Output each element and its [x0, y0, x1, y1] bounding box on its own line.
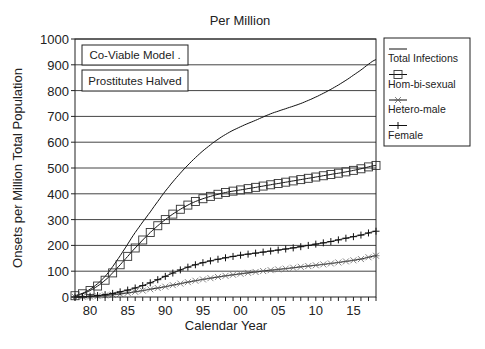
- x-tick-label: 95: [196, 303, 210, 318]
- y-tick-label: 400: [47, 187, 69, 202]
- asterisk-marker: [169, 282, 176, 288]
- plus-marker: [169, 270, 176, 277]
- legend-label: Female: [388, 129, 423, 141]
- plus-marker: [327, 238, 334, 245]
- asterisk-marker: [207, 275, 214, 281]
- x-axis-label: Calendar Year: [185, 318, 268, 333]
- plus-marker: [297, 243, 304, 250]
- y-tick-label: 900: [47, 58, 69, 73]
- plus-marker: [199, 259, 206, 266]
- plus-marker: [230, 253, 237, 260]
- x-tick-label: 15: [346, 303, 360, 318]
- plus-marker: [147, 279, 154, 286]
- asterisk-marker: [260, 268, 267, 274]
- plus-marker: [350, 233, 357, 240]
- plus-marker: [154, 276, 161, 283]
- y-tick-label: 500: [47, 161, 69, 176]
- plus-marker: [267, 248, 274, 255]
- asterisk-marker: [357, 256, 364, 262]
- x-tick-label: 80: [83, 303, 97, 318]
- asterisk-marker: [290, 265, 297, 271]
- asterisk-marker: [214, 274, 221, 280]
- plus-marker: [132, 284, 139, 291]
- plus-marker: [357, 232, 364, 239]
- asterisk-marker: [342, 258, 349, 264]
- y-tick-label: 1000: [40, 32, 69, 47]
- plus-marker: [184, 264, 191, 271]
- data-series: [71, 60, 380, 301]
- asterisk-marker: [199, 276, 206, 282]
- y-tick-label: 100: [47, 264, 69, 279]
- asterisk-marker: [162, 284, 169, 290]
- plus-marker: [162, 273, 169, 280]
- plus-marker: [282, 246, 289, 253]
- annotation-text: Co-Viable Model .: [89, 49, 180, 61]
- x-tick-label: 85: [120, 303, 134, 318]
- plus-marker: [275, 247, 282, 254]
- plus-marker: [207, 257, 214, 264]
- y-tick-label: 800: [47, 84, 69, 99]
- plus-marker: [222, 254, 229, 261]
- x-tick-label: 00: [233, 303, 247, 318]
- series-female: [72, 228, 380, 301]
- plus-marker: [335, 236, 342, 243]
- legend-label: Hom-bi-sexual: [388, 78, 456, 90]
- x-tick-label: 90: [158, 303, 172, 318]
- x-axis: 8085909500051015: [75, 297, 376, 318]
- plus-marker: [260, 249, 267, 256]
- chart: Per Million 0100200300400500600700800900…: [0, 0, 485, 349]
- asterisk-marker: [305, 263, 312, 269]
- plus-marker: [192, 261, 199, 268]
- plus-marker: [342, 235, 349, 242]
- plus-marker: [312, 241, 319, 248]
- asterisk-marker: [312, 262, 319, 268]
- legend-label: Total Infections: [388, 52, 458, 64]
- asterisk-marker: [230, 272, 237, 278]
- plus-marker: [305, 242, 312, 249]
- asterisk-marker: [192, 278, 199, 284]
- asterisk-marker: [184, 279, 191, 285]
- plus-marker: [252, 250, 259, 257]
- legend: Total InfectionsHom-bi-sexualHetero-male…: [384, 38, 470, 146]
- annotation-boxes: Co-Viable Model .Prostitutes Halved: [82, 45, 188, 91]
- asterisk-marker: [177, 281, 184, 287]
- y-axis-label: Onsets per Million Total Population: [10, 68, 25, 268]
- y-tick-label: 700: [47, 109, 69, 124]
- asterisk-marker: [327, 260, 334, 266]
- asterisk-marker: [267, 267, 274, 273]
- x-tick-label: 10: [309, 303, 323, 318]
- line-chart: Per Million 0100200300400500600700800900…: [0, 0, 485, 349]
- asterisk-marker: [350, 257, 357, 263]
- plus-marker: [245, 251, 252, 258]
- y-tick-label: 600: [47, 135, 69, 150]
- asterisk-marker: [335, 259, 342, 265]
- asterisk-marker: [320, 261, 327, 267]
- y-tick-label: 300: [47, 213, 69, 228]
- legend-label: Hetero-male: [388, 103, 446, 115]
- plus-marker: [109, 290, 116, 297]
- plus-marker: [237, 252, 244, 259]
- asterisk-marker: [252, 269, 259, 275]
- y-tick-label: 200: [47, 238, 69, 253]
- annotation-text: Prostitutes Halved: [88, 75, 181, 87]
- chart-title: Per Million: [210, 13, 271, 28]
- x-tick-label: 05: [271, 303, 285, 318]
- plus-marker: [214, 256, 221, 263]
- asterisk-marker: [297, 264, 304, 270]
- asterisk-marker: [365, 254, 372, 260]
- asterisk-marker: [147, 286, 154, 292]
- asterisk-marker: [222, 273, 229, 279]
- plus-marker: [365, 229, 372, 236]
- y-tick-label: 0: [62, 290, 69, 305]
- legend-item: Total Infections: [388, 49, 458, 64]
- plus-marker: [177, 266, 184, 273]
- y-axis: 01002003004005006007008009001000: [40, 32, 75, 305]
- asterisk-marker: [154, 285, 161, 291]
- series-hom-bi-sexual: [71, 161, 380, 299]
